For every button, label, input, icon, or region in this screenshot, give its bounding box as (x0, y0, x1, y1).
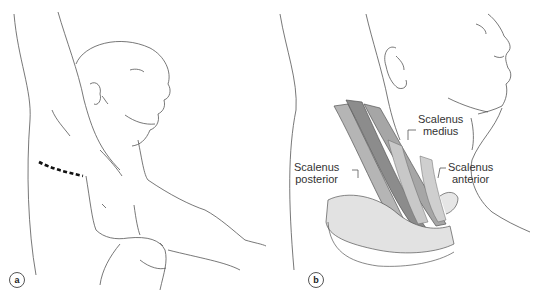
panel-a-illustration: a (0, 0, 268, 297)
label-line: medius (418, 125, 463, 137)
label-scalenus-posterior: Scalenus posterior (294, 161, 339, 185)
panel-b-illustration: Scalenus medius Scalenus posterior Scale… (268, 0, 536, 297)
panel-label-a: a (9, 272, 25, 288)
label-line: posterior (294, 173, 339, 185)
supine-patient-drawing (0, 0, 268, 297)
panel-label-b: b (308, 272, 324, 288)
label-scalenus-anterior: Scalenus anterior (448, 161, 493, 185)
label-line: Scalenus (418, 113, 463, 125)
scalene-muscles-drawing (268, 0, 536, 297)
label-line: anterior (448, 173, 493, 185)
label-scalenus-medius: Scalenus medius (418, 113, 463, 137)
label-line: Scalenus (448, 161, 493, 173)
label-line: Scalenus (294, 161, 339, 173)
incision-line (39, 162, 83, 176)
